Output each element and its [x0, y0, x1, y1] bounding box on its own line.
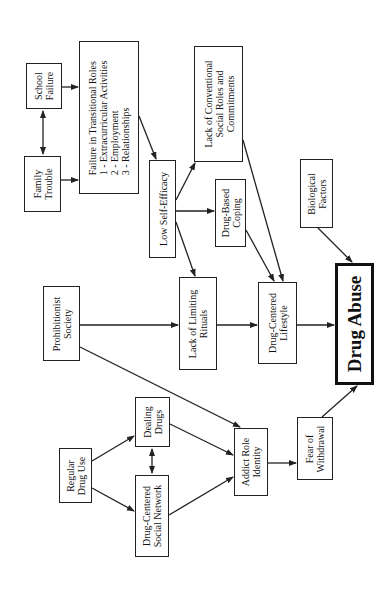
node-addict-role-identity: Addict RoleIdentity [234, 428, 268, 496]
node-label: Lack of ConventionalSocial Roles andComm… [202, 60, 235, 147]
node-label-line: Regular [65, 456, 76, 495]
node-label-line: Coping [231, 189, 242, 237]
edge-regular-drug-use-to-dealing-drugs [92, 436, 134, 461]
node-label-line: Drug-Centered [141, 485, 152, 548]
node-label-line: Social Network [152, 485, 163, 548]
node-label-line: Failure in Transitional Roles [87, 60, 98, 175]
node-label-line: Drug Abuse [345, 276, 365, 373]
node-label-line: Commitments [224, 60, 235, 147]
node-label-line: Low Self-Efficacy [157, 172, 168, 246]
node-label: BiologicalFactors [306, 173, 328, 215]
node-label-line: Lack of Conventional [202, 60, 213, 147]
node-drug-centered-social-network: Drug-CenteredSocial Network [135, 475, 169, 557]
node-label-line: Failure [44, 72, 55, 100]
node-label: Failure in Transitional Roles1 - Extracu… [87, 60, 131, 175]
node-label-line: Factors [317, 173, 328, 215]
node-family-trouble: FamilyTrouble [24, 156, 61, 212]
node-drug-based-coping: Drug-BasedCoping [215, 179, 246, 247]
node-label-line: Biological [306, 173, 317, 215]
node-label-line: Addict Role [240, 438, 251, 487]
edge-drug-centered-social-network-to-addict-role-identity [169, 477, 233, 515]
node-label-line: Family [32, 168, 43, 199]
node-regular-drug-use: RegularDrug Use [59, 448, 92, 503]
node-label-line: Dealing [142, 406, 153, 438]
node-biological-factors: BiologicalFactors [300, 159, 333, 228]
edge-dealing-drugs-to-addict-role-identity [170, 424, 233, 455]
edge-drug-based-coping-to-drug-centered-lifestyle [246, 230, 274, 281]
node-drug-centered-lifestyle: Drug-CenteredLifestyle [258, 282, 297, 364]
node-label: Drug-CenteredLifestyle [267, 293, 289, 353]
node-label: Addict RoleIdentity [240, 438, 262, 487]
node-label: DealingDrugs [142, 406, 164, 438]
node-label-line: School [33, 72, 44, 100]
node-fear-of-withdrawal: Fear ofWithdrawal [297, 417, 333, 480]
node-label: ProhibitionistSociety [51, 296, 73, 350]
node-label-line: Lifestyle [278, 293, 289, 353]
edge-low-self-efficacy-to-lack-limiting-rituals [176, 222, 195, 276]
node-label-line: Rituals [198, 289, 209, 357]
node-label: FamilyTrouble [32, 168, 54, 199]
node-label-line: Drugs [153, 406, 164, 438]
node-low-self-efficacy: Low Self-Efficacy [149, 160, 176, 258]
node-label-line: Trouble [43, 168, 54, 199]
node-label-line: Identity [251, 438, 262, 487]
node-label: RegularDrug Use [65, 456, 87, 495]
node-label: Lack of LimitingRituals [187, 289, 209, 357]
node-label: Fear ofWithdrawal [304, 425, 326, 472]
drug-abuse-diagram: SchoolFailureFamilyTroubleFailure in Tra… [0, 0, 390, 606]
edge-low-self-efficacy-to-lack-conventional [176, 163, 195, 200]
edge-biological-factors-to-drug-abuse [318, 228, 352, 262]
node-label-line: 2 - Employment [109, 60, 120, 175]
node-label: Drug-CenteredSocial Network [141, 485, 163, 548]
node-failure-transitional: Failure in Transitional Roles1 - Extracu… [79, 41, 139, 194]
node-dealing-drugs: DealingDrugs [135, 397, 170, 447]
node-label-line: Drug Use [76, 456, 87, 495]
node-prohibitionist-society: ProhibitionistSociety [43, 286, 80, 361]
node-label-line: 3 - Relationships [120, 60, 131, 175]
node-label: Low Self-Efficacy [157, 172, 168, 246]
node-label-line: Lack of Limiting [187, 289, 198, 357]
edge-fear-of-withdrawal-to-drug-abuse [322, 386, 357, 417]
edge-failure-transitional-to-low-self-efficacy [139, 116, 156, 159]
node-label: Drug Abuse [345, 276, 365, 373]
node-label-line: Society [62, 296, 73, 350]
edge-regular-drug-use-to-drug-centered-social-network [92, 488, 134, 511]
node-label: SchoolFailure [33, 72, 55, 100]
node-label-line: Drug-Based [220, 189, 231, 237]
node-school-failure: SchoolFailure [26, 63, 62, 109]
node-label: Drug-BasedCoping [220, 189, 242, 237]
node-label-line: Social Roles and [213, 60, 224, 147]
node-label-line: Withdrawal [315, 425, 326, 472]
node-label-line: Prohibitionist [51, 296, 62, 350]
node-lack-limiting-rituals: Lack of LimitingRituals [179, 277, 217, 370]
node-drug-abuse: Drug Abuse [335, 263, 374, 385]
node-label-line: 1 - Extracurricular Activities [98, 60, 109, 175]
node-lack-conventional: Lack of ConventionalSocial Roles andComm… [194, 46, 243, 162]
node-label-line: Fear of [304, 425, 315, 472]
node-label-line: Drug-Centered [267, 293, 278, 353]
